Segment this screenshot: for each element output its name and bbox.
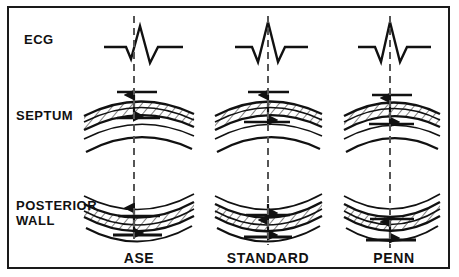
row-label-septum: SEPTUM (16, 109, 73, 124)
echocardiography-measurement-figure: ECG SEPTUM POSTERIOR WALL ASE STANDARD P… (0, 0, 459, 277)
column-label-standard: STANDARD (227, 250, 309, 266)
column-label-ase: ASE (124, 250, 155, 266)
figure-border (7, 6, 450, 269)
column-label-penn: PENN (373, 250, 414, 266)
row-label-posterior-wall: POSTERIOR WALL (16, 199, 97, 228)
row-label-ecg: ECG (24, 33, 54, 48)
